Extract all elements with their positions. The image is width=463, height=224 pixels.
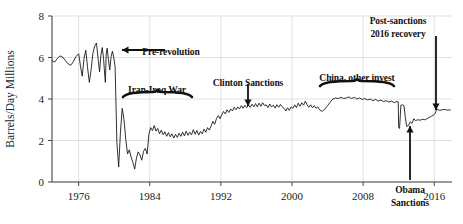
- obama-sanctions-arrow-head: [406, 126, 413, 133]
- y-tick-label: 8: [39, 10, 45, 22]
- y-tick-label: 2: [39, 135, 45, 147]
- y-tick-label: 0: [39, 176, 45, 188]
- pre-revolution-arrow-head: [122, 46, 129, 53]
- chart-figure: 02468197619841992200020082016Barrels/Day…: [0, 0, 463, 224]
- data-line-series-0: [52, 43, 450, 169]
- annotation-label-obama-sanctions: Sanctions: [391, 198, 429, 208]
- y-axis-title: Barrels/Day Millions: [4, 50, 17, 148]
- gridlines: [52, 16, 452, 182]
- x-tick-label: 2008: [352, 190, 375, 202]
- x-tick-label: 1992: [210, 190, 232, 202]
- x-tick-label: 1984: [139, 190, 162, 202]
- x-tick-label: 2000: [281, 190, 304, 202]
- annotation-label-iran-iraq-war: Iran-Iraq War: [128, 85, 186, 95]
- annotation-label-pre-revolution: Pre-revolution: [142, 47, 199, 57]
- x-tick-label: 1976: [68, 190, 91, 202]
- annotation-label-obama-sanctions: Obama: [395, 185, 425, 195]
- post-sanctions-recovery-arrow-head: [432, 104, 439, 111]
- clinton-sanctions-arrow-head: [244, 100, 251, 107]
- y-tick-label: 4: [39, 93, 45, 105]
- y-tick-label: 6: [39, 52, 45, 64]
- annotation-label-post-sanctions-recovery: 2016 recovery: [370, 29, 425, 39]
- annotation-label-china-other-invest: China, other invest: [319, 73, 394, 83]
- annotation-label-clinton-sanctions: Clinton Sanctions: [213, 78, 283, 88]
- annotation-label-post-sanctions-recovery: Post-sanctions: [370, 16, 427, 26]
